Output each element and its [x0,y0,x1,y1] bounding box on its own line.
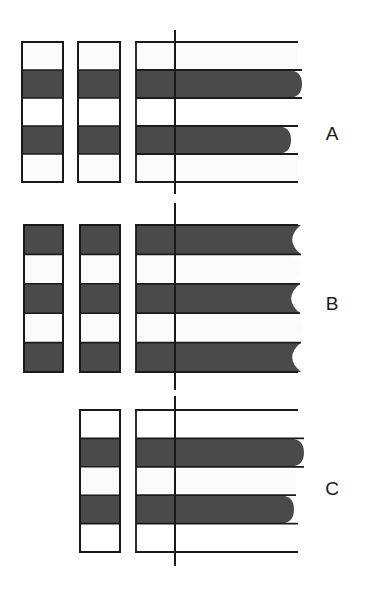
chart-c-bar-2 [136,467,296,495]
chart-b-bar-1 [136,254,301,283]
figure-svg: ABC [0,0,372,589]
chart-b-bar-0 [136,225,301,254]
col-b-2-band-1 [80,254,120,283]
chart-a[interactable] [135,30,302,194]
col-b-1-band-4 [24,343,63,372]
chart-a-bar-1 [136,70,302,98]
col-b-1-band-1 [24,254,63,283]
col-b-1-band-0 [24,225,63,254]
panel-a-label: A [326,123,339,144]
col-b-1-band-3 [24,313,63,342]
col-b-2-band-4 [80,343,120,372]
col-a-1-band-1 [22,70,63,98]
chart-b[interactable] [135,203,303,390]
col-b-1[interactable] [24,225,63,372]
chart-a-bar-2 [136,98,298,126]
col-b-2-band-0 [80,225,120,254]
chart-c-bar-4 [136,524,298,552]
panel-c: C [80,396,339,566]
panel-b-label: B [326,293,339,314]
col-a-2-band-4 [78,154,120,182]
col-b-2-band-2 [80,284,120,313]
chart-c-bar-3 [136,495,294,523]
col-a-2-band-0 [78,42,120,70]
col-a-1-band-0 [22,42,63,70]
col-b-2-band-3 [80,313,120,342]
col-a-2-band-1 [78,70,120,98]
chart-a-bar-0 [136,42,298,70]
panel-c-label: C [325,478,339,499]
col-b-2[interactable] [80,225,120,372]
panel-b: B [24,203,338,390]
chart-a-bar-4 [136,154,298,182]
col-c-2-band-2 [80,467,120,495]
col-c-2-band-3 [80,495,120,523]
chart-b-bar-3 [136,313,303,342]
col-a-2[interactable] [78,42,120,182]
col-c-2[interactable] [80,410,120,552]
col-b-1-band-2 [24,284,63,313]
chart-b-bar-4 [136,343,301,372]
chart-a-bar-3 [136,126,291,154]
col-a-1[interactable] [22,42,63,182]
col-a-1-band-4 [22,154,63,182]
col-c-2-band-4 [80,524,120,552]
figure-container: ABC [0,0,372,589]
panel-a: A [22,30,339,194]
chart-c-bar-0 [136,410,298,438]
col-c-2-band-0 [80,410,120,438]
chart-b-bar-2 [136,284,300,313]
col-a-1-band-3 [22,126,63,154]
col-a-1-band-2 [22,98,63,126]
chart-c[interactable] [135,396,304,566]
col-a-2-band-2 [78,98,120,126]
col-a-2-band-3 [78,126,120,154]
chart-c-bar-1 [136,438,304,466]
col-c-2-band-1 [80,438,120,466]
